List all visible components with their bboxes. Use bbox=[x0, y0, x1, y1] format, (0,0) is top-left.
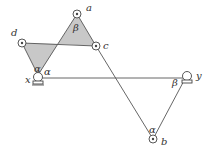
link-c-b bbox=[96, 46, 153, 139]
label-b: b bbox=[161, 136, 167, 147]
joint-b bbox=[149, 135, 157, 143]
label-x: x bbox=[25, 74, 31, 85]
pivot-y bbox=[182, 72, 192, 84]
label-d: d bbox=[11, 27, 17, 38]
pivot-x bbox=[32, 73, 44, 86]
label-a: a bbox=[86, 2, 92, 13]
joint-d bbox=[18, 39, 26, 47]
joint-a bbox=[73, 10, 81, 18]
angle-alpha-x-right: α bbox=[44, 66, 51, 77]
linkage-diagram: a d c x y b β α α β α bbox=[0, 0, 207, 150]
joint-c bbox=[92, 42, 100, 50]
label-y: y bbox=[195, 70, 202, 81]
angle-beta-y: β bbox=[171, 77, 178, 88]
angle-alpha-x-upper: α bbox=[34, 63, 41, 74]
label-c: c bbox=[103, 40, 109, 51]
angle-alpha-b: α bbox=[149, 124, 156, 135]
link-b-y bbox=[153, 75, 187, 139]
angle-beta-a: β bbox=[72, 22, 79, 33]
